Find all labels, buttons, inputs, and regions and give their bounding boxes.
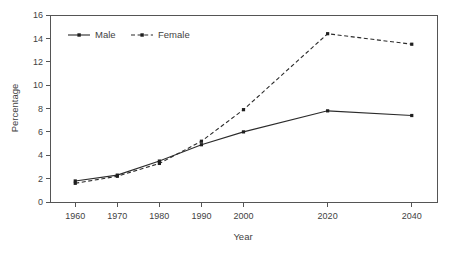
series-female-marker — [326, 32, 329, 35]
chart-container: 0246810121416 19601970198019902000202020… — [0, 0, 450, 255]
y-tick-label: 10 — [33, 80, 43, 90]
series-male-marker — [200, 143, 203, 146]
x-tick-label: 1980 — [149, 211, 169, 221]
y-tick-label: 4 — [38, 150, 43, 160]
series-female-marker — [242, 108, 245, 111]
legend-marker-male — [77, 33, 80, 36]
y-tick-label: 16 — [33, 10, 43, 20]
y-tick-label: 2 — [38, 174, 43, 184]
x-tick-label: 1960 — [65, 211, 85, 221]
x-axis-ticks: 1960197019801990200020202040 — [65, 202, 422, 221]
y-tick-label: 0 — [38, 197, 43, 207]
x-tick-label: 1970 — [107, 211, 127, 221]
legend-label-female: Female — [158, 29, 190, 40]
legend-item-male[interactable]: Male — [68, 29, 116, 40]
y-axis-title: Percentage — [9, 84, 20, 133]
series-male-marker — [410, 114, 413, 117]
legend-marker-female — [140, 33, 143, 36]
series-female-marker — [158, 162, 161, 165]
series-male-marker — [326, 109, 329, 112]
x-tick-label: 2020 — [318, 211, 338, 221]
series-male-line — [75, 111, 412, 181]
series-male-marker — [242, 130, 245, 133]
y-tick-label: 6 — [38, 127, 43, 137]
series-female-marker — [410, 43, 413, 46]
line-chart: 0246810121416 19601970198019902000202020… — [0, 0, 450, 255]
chart-legend: MaleFemale — [68, 29, 190, 40]
legend-item-female[interactable]: Female — [131, 29, 190, 40]
series-layer — [74, 32, 414, 185]
legend-label-male: Male — [95, 29, 116, 40]
x-tick-label: 2000 — [233, 211, 253, 221]
x-tick-label: 1990 — [191, 211, 211, 221]
series-female-marker — [116, 175, 119, 178]
y-tick-label: 14 — [33, 34, 43, 44]
y-axis-ticks: 0246810121416 — [33, 10, 50, 207]
series-female-marker — [200, 140, 203, 143]
series-female-marker — [74, 182, 77, 185]
x-axis-title: Year — [233, 231, 252, 242]
y-tick-label: 12 — [33, 57, 43, 67]
y-tick-label: 8 — [38, 104, 43, 114]
x-tick-label: 2040 — [402, 211, 422, 221]
